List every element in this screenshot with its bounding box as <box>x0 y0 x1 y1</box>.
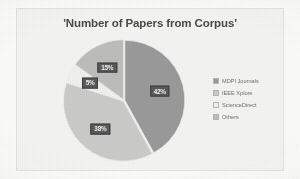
legend-label: MDPI Journals <box>222 78 259 84</box>
legend-swatch-icon <box>213 78 219 84</box>
chart-title: 'Number of Papers from Corpus' <box>17 17 283 29</box>
chart-card: 'Number of Papers from Corpus' 42% 38% 5… <box>16 8 284 171</box>
pie-data-label-ieee-xplore: 38% <box>91 124 110 135</box>
chart-screenshot: 'Number of Papers from Corpus' 42% 38% 5… <box>0 0 300 179</box>
pie-chart-svg <box>63 38 185 163</box>
chart-legend: MDPI Journals IEEE Xplore ScienceDirect … <box>213 75 283 123</box>
pie-data-label-others: 15% <box>98 62 117 73</box>
legend-item-ieee-xplore[interactable]: IEEE Xplore <box>213 87 283 99</box>
legend-label: IEEE Xplore <box>222 90 252 96</box>
pie-data-label-mdpi-journals: 42% <box>150 86 169 97</box>
pie-chart: 42% 38% 5% 15% <box>63 38 185 163</box>
legend-swatch-icon <box>213 102 219 108</box>
legend-swatch-icon <box>213 114 219 120</box>
legend-item-sciencedirect[interactable]: ScienceDirect <box>213 99 283 111</box>
legend-label: ScienceDirect <box>222 102 257 108</box>
pie-data-label-sciencedirect: 5% <box>82 78 98 89</box>
legend-label: Others <box>222 114 239 120</box>
legend-item-others[interactable]: Others <box>213 111 283 123</box>
legend-swatch-icon <box>213 90 219 96</box>
legend-item-mdpi-journals[interactable]: MDPI Journals <box>213 75 283 87</box>
